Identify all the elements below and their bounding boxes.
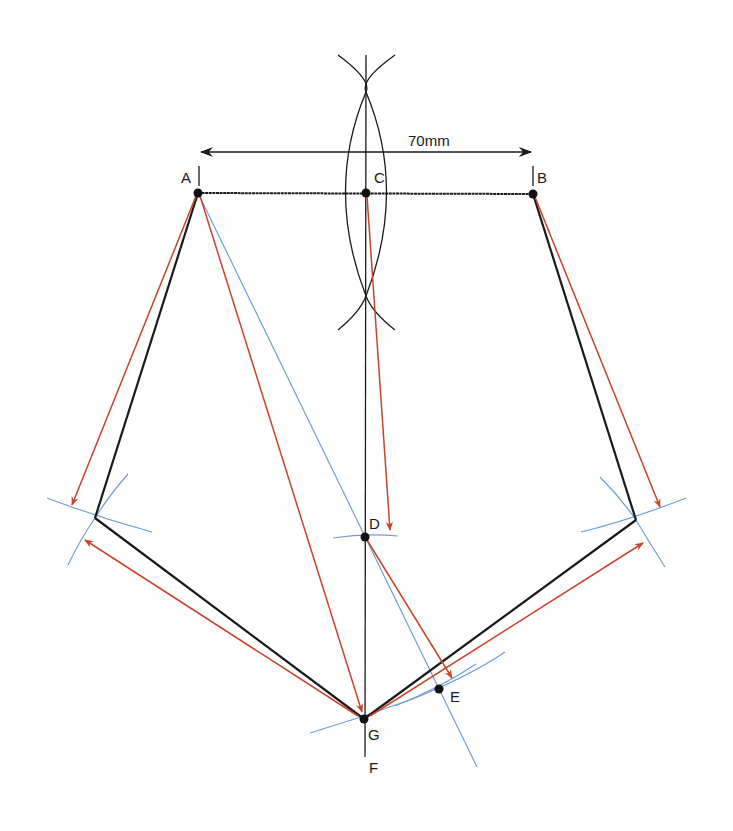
label-c: C [374,169,385,186]
point-a [194,189,203,198]
label-g: G [368,726,380,743]
pentagon-construction-diagram: 70mm [0,0,733,831]
point-labels: A C B D E G F [181,169,547,776]
point-g [360,715,369,724]
dimension-label: 70mm [408,132,450,149]
point-b [529,190,538,199]
label-e: E [450,688,460,705]
point-e [435,685,444,694]
point-c [362,189,371,198]
label-f: F [369,759,378,776]
label-a: A [181,169,191,186]
label-b: B [537,169,547,186]
label-d: D [369,515,380,532]
point-d [361,533,370,542]
blue-construction [47,193,686,767]
perpendicular-bisector-line [365,55,366,757]
